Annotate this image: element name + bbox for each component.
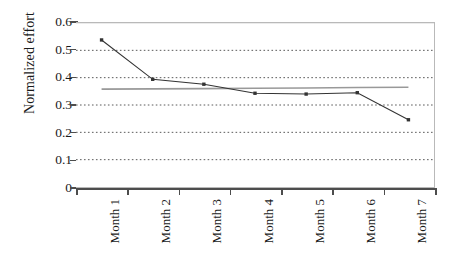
y-tick-label: 0.4 [38, 71, 72, 85]
data-point-marker [407, 118, 410, 121]
data-point-marker [253, 92, 256, 95]
plot-svg [76, 23, 434, 187]
data-point-marker [151, 78, 154, 81]
plot-area [76, 22, 435, 188]
x-tick-mark [332, 188, 334, 195]
x-tick-label: Month 2 [159, 199, 172, 269]
x-tick-mark [230, 188, 232, 195]
x-tick-mark [179, 188, 181, 195]
x-tick-mark [127, 188, 129, 195]
x-tick-label: Month 5 [313, 199, 326, 269]
x-tick-label: Month 4 [262, 199, 275, 269]
x-tick-mark [435, 188, 437, 195]
data-series-line [102, 40, 409, 120]
data-point-marker [304, 92, 307, 95]
x-tick-label: Month 6 [364, 199, 377, 269]
data-point-marker [100, 38, 103, 41]
x-axis-line [76, 188, 436, 190]
x-tick-label: Month 1 [108, 199, 121, 269]
gridlines [76, 23, 434, 160]
x-tick-mark [384, 188, 386, 195]
y-tick-label: 0.2 [38, 126, 72, 140]
x-tick-mark [281, 188, 283, 195]
y-axis-title: Normalized effort [22, 0, 38, 138]
line-chart: Normalized effort 00.10.20.30.40.50.6 Mo… [0, 0, 450, 274]
y-tick-label: 0.1 [38, 154, 72, 168]
trend-line [102, 87, 409, 89]
y-tick-label: 0 [38, 181, 72, 195]
y-tick-label: 0.6 [38, 15, 72, 29]
x-tick-label: Month 3 [210, 199, 223, 269]
y-tick-label: 0.5 [38, 43, 72, 57]
x-tick-mark [76, 188, 78, 195]
y-tick-label: 0.3 [38, 98, 72, 112]
data-point-marker [202, 83, 205, 86]
data-point-marker [356, 91, 359, 94]
x-tick-label: Month 7 [415, 199, 428, 269]
y-axis-tick-labels: 00.10.20.30.40.50.6 [38, 0, 72, 274]
